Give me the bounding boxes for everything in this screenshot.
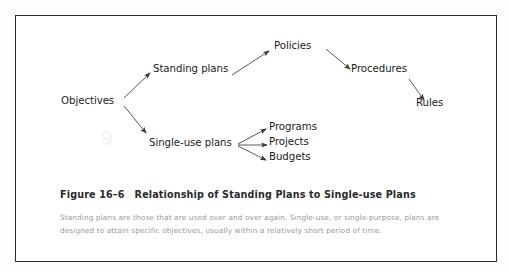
page-number-watermark: 9 — [101, 129, 113, 148]
node-programs: Programs — [269, 122, 317, 132]
edge-objectives-single-use-plans — [124, 106, 146, 133]
caption-block: Figure 16–6Relationship of Standing Plan… — [60, 189, 460, 237]
node-procedures: Procedures — [351, 64, 407, 74]
edge-objectives-standing-plans — [124, 73, 150, 98]
figure-title: Relationship of Standing Plans to Single… — [135, 189, 416, 200]
edge-policies-procedures — [326, 49, 350, 69]
node-rules: Rules — [416, 98, 443, 108]
edge-single-use-plans-budgets — [238, 146, 266, 160]
node-single-use-plans: Single-use plans — [149, 138, 232, 148]
node-policies: Policies — [274, 41, 311, 51]
figure-page: 9 Objectives Standing plans Single-use p… — [0, 0, 509, 272]
edge-single-use-plans-programs — [238, 129, 266, 144]
figure-border: 9 Objectives Standing plans Single-use p… — [15, 15, 497, 262]
node-objectives: Objectives — [61, 96, 114, 106]
flow-diagram: 9 Objectives Standing plans Single-use p… — [16, 16, 498, 176]
edge-standing-plans-policies — [232, 51, 269, 75]
node-budgets: Budgets — [269, 152, 311, 162]
figure-caption: Figure 16–6Relationship of Standing Plan… — [60, 189, 460, 200]
node-projects: Projects — [269, 137, 309, 147]
node-standing-plans: Standing plans — [153, 64, 228, 74]
figure-number: Figure 16–6 — [60, 189, 125, 200]
figure-body-text: Standing plans are those that are used o… — [60, 212, 452, 237]
